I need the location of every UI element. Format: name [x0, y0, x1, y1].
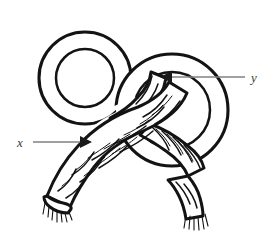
rope-right-frayed-end	[168, 176, 208, 230]
left-ring-inner-circle	[56, 49, 114, 107]
label-y-text: y	[249, 70, 257, 85]
rope-rings-illustration: Twisted rope threaded through two interl…	[0, 0, 272, 236]
rope-right-end-body	[168, 176, 203, 219]
rope-rear-segment	[140, 124, 204, 176]
rope-rear-body	[140, 124, 204, 176]
figure-container: Twisted rope threaded through two interl…	[0, 0, 272, 236]
label-x-text: x	[16, 135, 23, 150]
